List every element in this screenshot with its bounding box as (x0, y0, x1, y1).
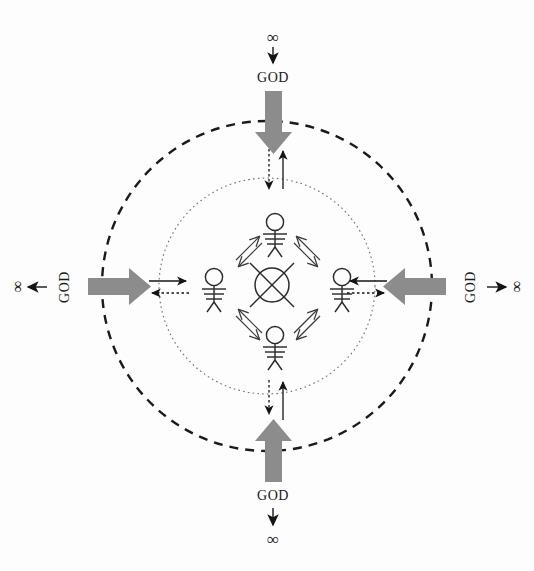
infinity-label-top: ∞ (267, 28, 279, 47)
infinity-label-right: ∞ (508, 281, 527, 293)
background (0, 0, 534, 571)
infinity-label-bottom: ∞ (267, 530, 279, 549)
god-label-bottom: GOD (257, 488, 289, 503)
god-label-left: GOD (57, 271, 72, 303)
diagram-canvas: ∞ GOD GOD ∞ ∞ GOD GOD ∞ (0, 0, 534, 571)
god-label-top: GOD (257, 70, 289, 85)
god-label-right: GOD (463, 271, 478, 303)
mandala-diagram: ∞ GOD GOD ∞ ∞ GOD GOD ∞ (0, 0, 534, 571)
infinity-label-left: ∞ (9, 281, 28, 293)
